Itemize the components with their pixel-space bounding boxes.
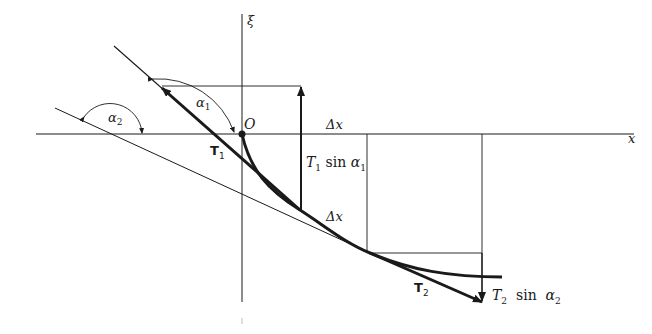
T2-label: T2: [414, 280, 429, 298]
T1-label: T1: [210, 143, 225, 161]
string-tension-diagram: ξ x O α1 α2 T1 T2 T1 sin α1 T2 sin α2 Δx…: [0, 0, 652, 334]
T1-sin-alpha1-label: T1 sin α1: [306, 154, 366, 173]
delta-x-top-label: Δx: [325, 117, 343, 132]
T2-sin-alpha2-label: T2 sin α2: [492, 287, 561, 306]
angle-arc-alpha1: [153, 79, 234, 132]
xi-axis-label: ξ: [247, 13, 255, 28]
tangent-line-2: [55, 108, 370, 253]
x-axis-label: x: [628, 131, 636, 146]
string-curve: [242, 134, 502, 277]
alpha2-label: α2: [108, 110, 123, 127]
alpha1-label: α1: [196, 95, 211, 112]
origin-label: O: [244, 116, 256, 132]
vector-T1: [162, 88, 300, 210]
delta-x-curve-label: Δx: [325, 209, 343, 224]
